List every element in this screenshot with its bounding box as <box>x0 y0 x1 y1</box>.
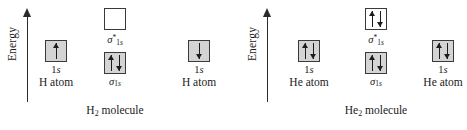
orbital-box <box>104 52 126 74</box>
electron-arrows <box>299 41 319 61</box>
electron-arrows <box>366 53 386 73</box>
orbital-box <box>45 40 67 62</box>
h2-mo-diagram: Energy 1s H atom σ*1s σ1s H2 molecule <box>0 0 229 130</box>
electron-arrows <box>46 41 66 61</box>
orbital-label: 1s <box>272 64 346 76</box>
he2-antibonding-orbital: σ*1s <box>339 8 413 49</box>
orbital-box <box>365 8 387 30</box>
h2-right-atom-orbital: 1s <box>162 40 236 76</box>
electron-arrows <box>366 9 386 29</box>
h2-molecule-label: H2 molecule <box>60 104 170 120</box>
he2-mo-diagram: Energy 1s He atom σ*1s σ1s <box>229 0 458 130</box>
electron-up-arrow-icon <box>108 55 115 71</box>
electron-down-arrow-icon <box>310 43 317 59</box>
orbital-box <box>298 40 320 62</box>
electron-down-arrow-icon <box>444 43 451 59</box>
molecule-formula-prefix: He <box>345 104 358 116</box>
orbital-label: σ*1s <box>339 32 413 49</box>
electron-arrows <box>105 9 125 29</box>
orbital-box <box>365 52 387 74</box>
electron-down-arrow-icon <box>377 11 384 27</box>
orbital-label: 1s <box>162 64 236 76</box>
he2-molecule-label: He2 molecule <box>321 104 431 120</box>
he2-right-atom-label: He atom <box>388 76 467 89</box>
orbital-box <box>104 8 126 30</box>
electron-arrows <box>433 41 453 61</box>
electron-down-arrow-icon <box>116 55 123 71</box>
energy-axis-label: Energy <box>246 11 258 77</box>
orbital-box <box>432 40 454 62</box>
electron-up-arrow-icon <box>369 11 376 27</box>
electron-up-arrow-icon <box>302 43 309 59</box>
electron-arrows <box>189 41 209 61</box>
orbital-label: σ*1s <box>78 32 152 49</box>
energy-axis-label: Energy <box>6 11 18 77</box>
electron-down-arrow-icon <box>377 55 384 71</box>
electron-arrows <box>105 53 125 73</box>
molecule-formula-suffix: molecule <box>362 104 407 116</box>
orbital-label: 1s <box>406 64 467 76</box>
electron-up-arrow-icon <box>369 55 376 71</box>
molecule-formula-suffix: molecule <box>99 104 144 116</box>
orbital-box <box>188 40 210 62</box>
electron-up-arrow-icon <box>436 43 443 59</box>
electron-down-arrow-icon <box>196 43 203 59</box>
h2-antibonding-orbital: σ*1s <box>78 8 152 49</box>
orbital-label: σ1s <box>78 76 152 90</box>
h2-bonding-orbital: σ1s <box>78 52 152 90</box>
he2-right-atom-orbital: 1s <box>406 40 467 76</box>
he2-left-atom-orbital: 1s <box>272 40 346 76</box>
electron-up-arrow-icon <box>53 43 60 59</box>
molecule-formula-prefix: H <box>86 104 94 116</box>
